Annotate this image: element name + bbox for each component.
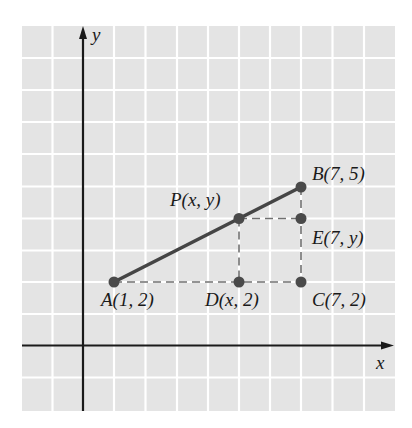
x-axis-label: x bbox=[375, 352, 385, 373]
label-p: P(x, y) bbox=[169, 189, 221, 211]
point-d bbox=[234, 277, 245, 288]
label-d: D(x, 2) bbox=[204, 289, 259, 311]
label-a: A(1, 2) bbox=[99, 289, 154, 311]
label-e: E(7, y) bbox=[311, 227, 364, 249]
label-d-text: D(x, 2) bbox=[204, 289, 259, 311]
label-a-text: A(1, 2) bbox=[99, 289, 154, 311]
label-p-text: P(x, y) bbox=[169, 189, 221, 211]
point-p bbox=[234, 213, 245, 224]
label-b: B(7, 5) bbox=[312, 163, 365, 185]
point-b bbox=[296, 182, 307, 193]
label-b-text: B(7, 5) bbox=[312, 163, 365, 185]
y-axis-label: y bbox=[90, 24, 101, 45]
coordinate-diagram: y x A(1, 2) B(7, 5) P(x, y) bbox=[0, 0, 412, 428]
point-e bbox=[296, 213, 307, 224]
point-a bbox=[109, 277, 120, 288]
label-c-text: C(7, 2) bbox=[312, 289, 366, 311]
label-c: C(7, 2) bbox=[312, 289, 366, 311]
diagram-canvas: y x A(1, 2) B(7, 5) P(x, y) bbox=[0, 0, 412, 428]
point-c bbox=[296, 277, 307, 288]
label-e-text: E(7, y) bbox=[311, 227, 364, 249]
